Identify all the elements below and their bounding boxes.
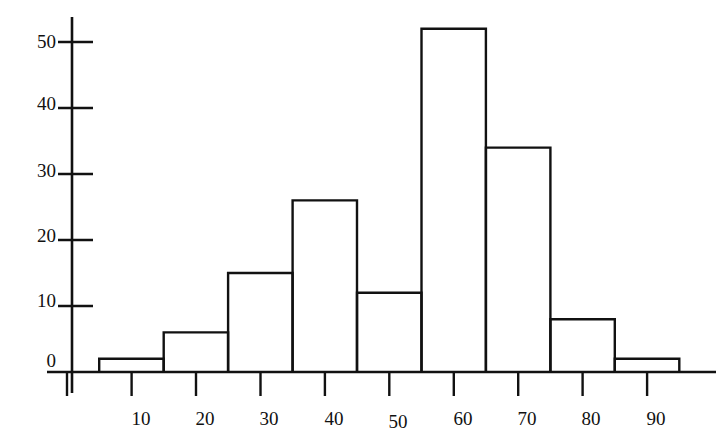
y-axis-tick-labels: 50 40 30 20 10 0 (37, 31, 56, 371)
x-tick-label-90: 90 (647, 408, 666, 429)
x-axis-tick-labels: 10 20 30 40 50 60 70 80 90 (132, 408, 666, 432)
bar-bin-85-95 (615, 359, 680, 372)
x-tick-label-10: 10 (132, 408, 151, 429)
histogram-figure: 50 40 30 20 10 0 10 20 30 40 50 60 70 80… (0, 0, 727, 448)
bar-series (99, 29, 679, 372)
histogram-canvas: 50 40 30 20 10 0 10 20 30 40 50 60 70 80… (0, 0, 727, 448)
x-tick-label-20: 20 (196, 408, 215, 429)
y-tick-label-10: 10 (37, 290, 56, 311)
bar-bin-75-85 (550, 319, 614, 372)
bar-bin-45-55 (357, 293, 422, 372)
y-axis-ticks (58, 42, 93, 306)
bar-bin-15-25 (164, 332, 228, 372)
y-tick-label-40: 40 (37, 93, 56, 114)
y-tick-label-30: 30 (37, 160, 56, 181)
x-tick-label-70: 70 (518, 408, 537, 429)
y-tick-label-50: 50 (37, 31, 56, 52)
bar-bin-55-65 (422, 29, 486, 372)
bar-bin-35-45 (293, 200, 357, 372)
x-tick-label-40: 40 (325, 408, 344, 429)
x-tick-label-50: 50 (389, 411, 408, 432)
x-tick-label-30: 30 (260, 408, 279, 429)
x-tick-label-60: 60 (454, 408, 473, 429)
y-tick-label-20: 20 (37, 225, 56, 246)
bar-bin-65-75 (486, 148, 551, 372)
x-axis-ticks (67, 372, 647, 396)
x-tick-label-80: 80 (582, 408, 601, 429)
y-tick-label-0: 0 (47, 350, 57, 371)
bar-bin-25-35 (228, 273, 293, 372)
bar-bin-5-15 (99, 359, 164, 372)
